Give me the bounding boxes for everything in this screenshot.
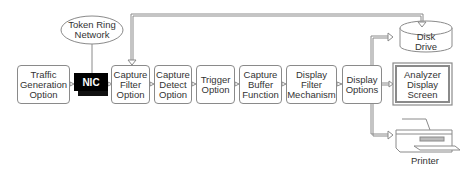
trigger-option-box: Trigger Option <box>196 65 235 104</box>
capture-buffer-function-box: Capture Buffer Function <box>239 65 282 104</box>
box-label-line: Generation <box>20 80 67 90</box>
capture-filter-option-box: Capture Filter Option <box>111 65 150 104</box>
token-ring-network-label: Token Ring Network <box>61 20 123 40</box>
disk-label-line: Drive <box>400 42 452 52</box>
box-label-line: Buffer <box>242 80 278 90</box>
box-label-line: Capture <box>156 70 190 80</box>
nic-label: NIC <box>82 77 99 88</box>
box-label-line: Traffic <box>20 70 67 80</box>
box-label-line: Filter <box>114 80 148 90</box>
box-label-line: Function <box>242 90 278 100</box>
box-label-line: Option <box>156 90 190 100</box>
box-label-line: Option <box>20 90 67 100</box>
printer-label: Printer <box>400 156 450 166</box>
display-filter-mechanism-box: Display Filter Mechanism <box>286 65 337 104</box>
box-label-line: Option <box>114 90 148 100</box>
capture-detect-option-box: Capture Detect Option <box>154 65 192 104</box>
box-label-line: Display <box>287 70 336 80</box>
box-label-line: Option <box>201 85 231 95</box>
box-label-line: Options <box>346 85 379 95</box>
network-label-line: Network <box>61 30 123 40</box>
box-label-line: Mechanism <box>287 90 336 100</box>
screen-label-line: Screen <box>396 90 449 100</box>
box-label-line: Trigger <box>201 75 231 85</box>
box-label-line: Detect <box>156 80 190 90</box>
box-label-line: Display <box>346 75 379 85</box>
traffic-generation-option-box: Traffic Generation Option <box>17 65 70 104</box>
display-options-box: Display Options <box>342 65 382 104</box>
box-label-line: Capture <box>114 70 148 80</box>
nic-box: NIC <box>74 73 108 91</box>
box-label-line: Capture <box>242 70 278 80</box>
disk-drive-label: Disk Drive <box>400 32 452 52</box>
analyzer-display-screen-label: Analyzer Display Screen <box>396 70 449 100</box>
box-label-line: Filter <box>287 80 336 90</box>
